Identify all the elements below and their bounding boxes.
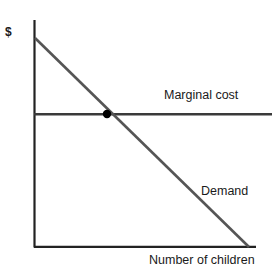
demand-label: Demand: [201, 185, 248, 198]
x-axis-title: Number of children: [149, 254, 255, 267]
y-axis-title: $: [5, 26, 12, 38]
chart-plot-area: [0, 0, 279, 278]
equilibrium-point-marker: [103, 110, 111, 118]
demand-line: [35, 38, 249, 247]
economics-supply-demand-chart: $ Marginal cost Demand Number of childre…: [0, 0, 279, 278]
marginal-cost-label: Marginal cost: [164, 89, 238, 102]
